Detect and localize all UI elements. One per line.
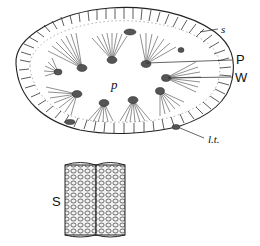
label-P: P xyxy=(236,53,245,66)
bundle-bottom-right xyxy=(160,91,184,116)
fibre-bundles xyxy=(44,33,201,122)
bundle-bottom-left-center xyxy=(88,103,113,122)
tubes xyxy=(65,163,125,238)
label-S: S xyxy=(52,195,61,208)
label-W: W xyxy=(235,71,247,84)
bundle-right xyxy=(166,62,201,92)
label-p: p xyxy=(111,78,118,91)
outer-section xyxy=(16,7,233,133)
label-lt: l.t. xyxy=(208,134,220,145)
cropped-caption xyxy=(0,240,260,246)
figure-illustration xyxy=(0,0,260,246)
bundle-top-center xyxy=(92,33,127,60)
bundle-top-right xyxy=(140,33,176,64)
leader-lines xyxy=(146,29,232,138)
bundle-bottom-left xyxy=(46,87,77,115)
label-s: s xyxy=(221,24,225,35)
cortex-hatching xyxy=(19,8,231,133)
nodes xyxy=(54,29,184,130)
bundle-top-left xyxy=(48,33,82,68)
